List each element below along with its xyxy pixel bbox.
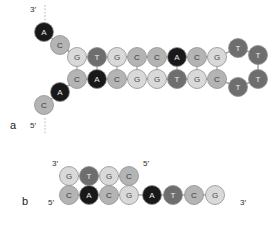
nucleotide-circle: [80, 167, 99, 186]
panel-b: GTGCCACGATCG3′5′5′3′b: [22, 159, 246, 207]
nucleotide-circle: [208, 70, 227, 89]
panel-a: ACGTGCCACGTTTTCGTGGCACAC3′5′a: [10, 5, 268, 135]
nucleotide-circle: [128, 70, 147, 89]
nucleotide-circle: [143, 186, 162, 205]
nucleotide-t: T: [229, 39, 248, 58]
nucleotide-circle: [206, 186, 225, 205]
five-prime-label-b-bottom: 5′: [48, 198, 54, 207]
nucleotide-t: T: [168, 70, 187, 89]
nucleotide-c: C: [68, 70, 87, 89]
nucleotide-circle: [168, 70, 187, 89]
nucleotide-g: G: [68, 48, 87, 67]
nucleotide-circle: [51, 36, 70, 55]
nucleotide-g: G: [128, 70, 147, 89]
nucleotide-circle: [108, 70, 127, 89]
nucleotide-t: T: [229, 78, 248, 97]
panel-label-b: b: [22, 195, 28, 207]
nucleotide-circle: [60, 167, 79, 186]
nucleotide-c: C: [128, 48, 147, 67]
nucleotide-t: T: [249, 70, 268, 89]
nucleotide-circle: [128, 48, 147, 67]
nucleotide-g: G: [188, 70, 207, 89]
nucleotide-a: A: [35, 23, 54, 42]
nucleotide-t: T: [249, 46, 268, 65]
nucleotide-a: A: [51, 83, 70, 102]
panel-label-a: a: [10, 119, 17, 131]
nucleotide-g: G: [100, 167, 119, 186]
nucleotide-circle: [35, 23, 54, 42]
nucleotide-t: T: [164, 186, 183, 205]
nucleotide-g: G: [120, 186, 139, 205]
nucleotide-g: G: [208, 48, 227, 67]
five-prime-label-a: 5′: [30, 121, 36, 130]
nucleotide-circle: [120, 167, 139, 186]
nucleotide-g: G: [60, 167, 79, 186]
nucleotide-c: C: [100, 186, 119, 205]
nucleotide-circle: [188, 48, 207, 67]
nucleotide-c: C: [188, 48, 207, 67]
nucleotide-t: T: [88, 48, 107, 67]
nucleotide-circle: [249, 46, 268, 65]
nucleotide-circle: [100, 167, 119, 186]
nucleotide-circle: [108, 48, 127, 67]
nucleotide-circle: [120, 186, 139, 205]
nucleotide-circle: [164, 186, 183, 205]
nucleotide-circle: [80, 186, 99, 205]
nucleotide-circle: [68, 48, 87, 67]
nucleotide-circle: [60, 186, 79, 205]
nucleotide-circle: [68, 70, 87, 89]
nucleotide-a: A: [88, 70, 107, 89]
nucleotide-circle: [249, 70, 268, 89]
nucleotide-circle: [148, 48, 167, 67]
nucleotide-circle: [88, 70, 107, 89]
nucleotide-c: C: [108, 70, 127, 89]
nucleotide-c: C: [35, 96, 54, 115]
nucleotide-c: C: [120, 167, 139, 186]
nucleotide-a: A: [168, 48, 187, 67]
nucleotide-circle: [188, 70, 207, 89]
nucleotide-circle: [185, 186, 204, 205]
nucleotide-circle: [51, 83, 70, 102]
nucleotide-circle: [168, 48, 187, 67]
nucleotide-c: C: [60, 186, 79, 205]
nucleotide-circle: [208, 48, 227, 67]
nucleotide-circle: [88, 48, 107, 67]
three-prime-label-a: 3′: [30, 5, 36, 14]
nucleotide-c: C: [185, 186, 204, 205]
dna-figure: ACGTGCCACGTTTTCGTGGCACAC3′5′aGTGCCACGATC…: [0, 0, 273, 228]
three-prime-label-b-top: 3′: [52, 159, 58, 168]
nucleotide-circle: [229, 78, 248, 97]
nucleotide-t: T: [80, 167, 99, 186]
nucleotide-a: A: [80, 186, 99, 205]
nucleotide-g: G: [148, 70, 167, 89]
five-prime-label-b-top: 5′: [143, 159, 149, 168]
nucleotide-g: G: [108, 48, 127, 67]
three-prime-label-b-bottom: 3′: [240, 198, 246, 207]
nucleotide-g: G: [206, 186, 225, 205]
nucleotide-circle: [35, 96, 54, 115]
nucleotide-c: C: [148, 48, 167, 67]
dna-diagram-svg: ACGTGCCACGTTTTCGTGGCACAC3′5′aGTGCCACGATC…: [0, 0, 273, 228]
nucleotide-c: C: [51, 36, 70, 55]
nucleotide-circle: [229, 39, 248, 58]
dna-diagram-content: ACGTGCCACGTTTTCGTGGCACAC3′5′aGTGCCACGATC…: [10, 5, 268, 207]
nucleotide-a: A: [143, 186, 162, 205]
nucleotide-circle: [100, 186, 119, 205]
nucleotide-circle: [148, 70, 167, 89]
nucleotide-c: C: [208, 70, 227, 89]
